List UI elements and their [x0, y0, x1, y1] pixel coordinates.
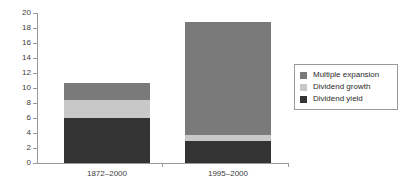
plot-area: 02468101214161820 [37, 13, 288, 163]
legend-label: Dividend growth [313, 83, 370, 91]
legend-swatch-icon [300, 84, 307, 91]
tick-mark [33, 163, 37, 164]
tick-mark [33, 148, 37, 149]
bar-segment-dividend-growth [64, 100, 150, 118]
legend-label: Multiple expansion [313, 71, 379, 79]
y-tick-label: 0 [27, 159, 31, 167]
y-tick-label: 12 [22, 69, 31, 77]
y-tick-label: 6 [27, 114, 31, 122]
legend-swatch-icon [300, 96, 307, 103]
bar-segment-dividend-yield [185, 141, 271, 164]
y-tick-label: 2 [27, 144, 31, 152]
y-tick-label: 18 [22, 24, 31, 32]
y-tick-label: 20 [22, 9, 31, 17]
tick-mark [33, 58, 37, 59]
x-axis-line [37, 163, 289, 164]
tick-mark [33, 118, 37, 119]
bar-segment-multiple-expansion [64, 83, 150, 100]
bar-1 [64, 83, 150, 163]
category-label-1: 1872–2000 [49, 170, 165, 178]
tick-mark [33, 133, 37, 134]
stacked-bar-chart: 02468101214161820 1872–20001995–2000 Mul… [0, 0, 408, 189]
tick-mark [33, 103, 37, 104]
y-tick-label: 10 [22, 84, 31, 92]
legend-swatch-icon [300, 72, 307, 79]
bar-segment-multiple-expansion [185, 22, 271, 135]
legend-item-dividend-growth[interactable]: Dividend growth [300, 81, 392, 93]
y-tick-label: 8 [27, 99, 31, 107]
chart-legend: Multiple expansionDividend growthDividen… [294, 64, 398, 110]
y-tick-label: 16 [22, 39, 31, 47]
tick-mark [33, 13, 37, 14]
tick-mark [33, 43, 37, 44]
y-tick-label: 14 [22, 54, 31, 62]
category-label-2: 1995–2000 [170, 170, 286, 178]
bar-2 [185, 22, 271, 163]
x-tick-1 [162, 163, 163, 167]
bar-segment-dividend-yield [64, 118, 150, 163]
legend-label: Dividend yield [313, 95, 363, 103]
legend-item-dividend-yield[interactable]: Dividend yield [300, 93, 392, 105]
y-tick-label: 4 [27, 129, 31, 137]
x-tick-2 [288, 163, 289, 167]
tick-mark [33, 88, 37, 89]
tick-mark [33, 73, 37, 74]
legend-item-multiple-expansion[interactable]: Multiple expansion [300, 69, 392, 81]
tick-mark [33, 28, 37, 29]
